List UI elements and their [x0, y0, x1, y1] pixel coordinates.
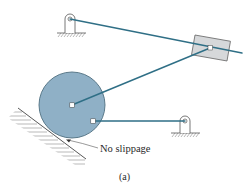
figure-caption: (a): [119, 171, 130, 182]
pin-joint-disc-offset: [91, 119, 96, 124]
ground-pivot-top-left: [57, 14, 86, 37]
pin-joint-slider: [208, 46, 213, 51]
link-top-pivot-to-slider: [70, 19, 242, 53]
arrowhead-icon: [66, 140, 71, 143]
ground-pivot-right: [171, 116, 200, 137]
pin-joint-disc-center: [70, 103, 75, 108]
no-slippage-label: No slippage: [100, 143, 150, 154]
mechanism-drawing: [0, 0, 251, 195]
mechanism-diagram: No slippage (a): [0, 0, 251, 195]
link-disc-center-to-slider: [72, 48, 210, 105]
contact-leader: [66, 140, 98, 149]
